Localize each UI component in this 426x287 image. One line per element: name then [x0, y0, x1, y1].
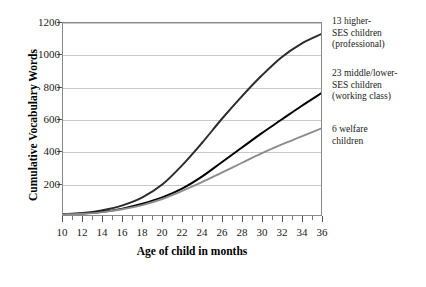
x-tick-mark: [262, 216, 263, 222]
series-annotation-welfare: 6 welfarechildren: [332, 124, 426, 147]
plot-area: [62, 22, 322, 216]
x-tick-mark-minor: [252, 216, 253, 220]
vocabulary-growth-chart: Cumulative Vocabulary Words 200400600800…: [0, 0, 426, 287]
x-tick-mark: [62, 216, 63, 222]
series-annotation-middle-lower-ses: 23 middle/lower-SES children(working cla…: [332, 68, 426, 103]
x-tick-mark-minor: [312, 216, 313, 220]
annotation-line: (professional): [332, 39, 426, 51]
x-tick-mark: [102, 216, 103, 222]
x-tick-mark-minor: [272, 216, 273, 220]
annotation-line: (working class): [332, 91, 426, 103]
series-annotation-higher-ses: 13 higher-SES children(professional): [332, 16, 426, 51]
x-tick-mark-minor: [192, 216, 193, 220]
y-tick-label: 1000: [0, 48, 60, 60]
x-tick-mark: [162, 216, 163, 222]
x-tick-label: 36: [307, 226, 337, 238]
series-line: [63, 129, 321, 215]
y-tick-label: 1200: [0, 16, 60, 28]
y-tick-label: 400: [0, 145, 60, 157]
annotation-line: 23 middle/lower-: [332, 68, 426, 80]
x-axis-title: Age of child in months: [62, 245, 322, 257]
x-tick-mark: [82, 216, 83, 222]
x-tick-mark: [322, 216, 323, 222]
x-tick-mark-minor: [292, 216, 293, 220]
x-tick-mark-minor: [92, 216, 93, 220]
x-tick-mark-minor: [112, 216, 113, 220]
x-tick-mark-minor: [232, 216, 233, 220]
series-lines: [63, 23, 321, 215]
y-tick-label: 800: [0, 81, 60, 93]
x-tick-mark: [282, 216, 283, 222]
x-tick-mark: [122, 216, 123, 222]
y-tick-label: 200: [0, 178, 60, 190]
x-tick-mark: [302, 216, 303, 222]
annotation-line: 6 welfare: [332, 124, 426, 136]
x-tick-mark: [242, 216, 243, 222]
x-tick-mark: [222, 216, 223, 222]
x-tick-mark: [202, 216, 203, 222]
x-tick-mark-minor: [212, 216, 213, 220]
x-tick-mark-minor: [132, 216, 133, 220]
x-tick-mark-minor: [152, 216, 153, 220]
annotation-line: children: [332, 136, 426, 148]
y-tick-label: 600: [0, 113, 60, 125]
annotation-line: SES children: [332, 28, 426, 40]
annotation-line: SES children: [332, 80, 426, 92]
annotation-line: 13 higher-: [332, 16, 426, 28]
x-tick-mark: [182, 216, 183, 222]
x-tick-mark-minor: [172, 216, 173, 220]
x-tick-mark: [142, 216, 143, 222]
x-tick-mark-minor: [72, 216, 73, 220]
